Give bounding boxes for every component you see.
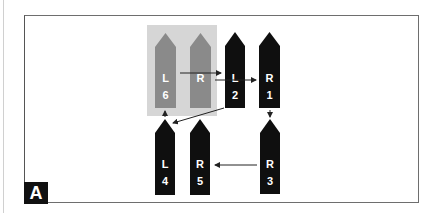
shape-R1-side: R [266, 72, 274, 84]
panel-label: A [24, 182, 48, 204]
shape-L2-number: 2 [232, 89, 238, 101]
shape-L6: L 6 [155, 33, 176, 108]
arrow-L2-to-L4 [173, 108, 224, 123]
shape-L6-number: 6 [162, 89, 168, 101]
shape-R5-side: R [196, 158, 204, 170]
shape-L2-side: L [232, 72, 239, 84]
shape-L4-side: L [162, 158, 169, 170]
shape-R6: R [190, 33, 211, 108]
shape-L6-side: L [162, 72, 169, 84]
sequence-diagram: L 6 R L 2 R 1 L 4 R 5 R 3 [0, 0, 440, 213]
shape-L2: L 2 [225, 32, 245, 108]
shape-R3: R 3 [260, 119, 280, 194]
shape-L4: L 4 [155, 119, 175, 195]
shape-L4-number: 4 [162, 175, 169, 187]
shape-R1: R 1 [259, 32, 280, 108]
shape-R5: R 5 [190, 119, 210, 195]
shape-R3-number: 3 [267, 175, 273, 187]
shape-R3-side: R [266, 158, 274, 170]
shape-R6-side: R [197, 72, 205, 84]
shape-R5-number: 5 [197, 175, 203, 187]
shape-R1-number: 1 [266, 89, 272, 101]
